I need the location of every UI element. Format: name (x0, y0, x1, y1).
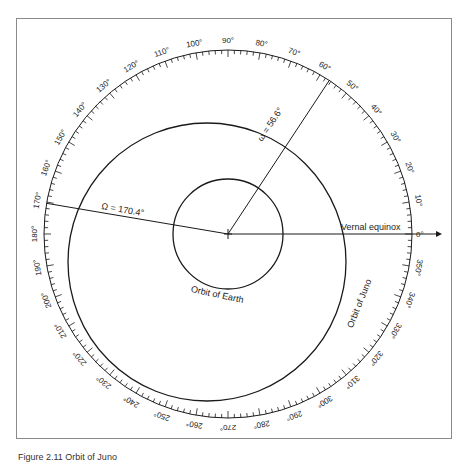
scale-tick (196, 53, 197, 60)
scale-tick (120, 380, 122, 383)
scale-tick (364, 348, 369, 352)
scale-tick (66, 148, 70, 150)
scale-label: 220° (71, 349, 89, 367)
scale-tick (317, 75, 321, 81)
scale-tick (53, 177, 57, 178)
scale-tick (47, 265, 54, 266)
scale-tick (374, 340, 377, 342)
scale-tick (370, 345, 373, 347)
scale-tick (115, 376, 117, 379)
scale-tick (83, 345, 86, 347)
scale-tick (177, 407, 178, 411)
scale-tick (323, 78, 325, 81)
scale-tick (79, 126, 82, 128)
scale-tick (348, 368, 351, 371)
scale-tick (57, 301, 61, 302)
scale-tick (295, 63, 296, 67)
scale-tick (48, 196, 52, 197)
scale-tick (115, 89, 117, 92)
scale-tick (278, 407, 279, 411)
scale-tick (136, 387, 140, 393)
scale-tick (110, 93, 114, 98)
scale-tick (202, 412, 203, 416)
scale-tick (159, 63, 160, 67)
scale-label: 180° (30, 226, 39, 243)
scale-tick (53, 290, 57, 291)
scale-tick (153, 398, 155, 402)
scale-tick (362, 354, 365, 357)
scale-tick (75, 335, 78, 337)
scale-tick (323, 387, 325, 390)
scale-tick (353, 363, 356, 366)
scale-tick (401, 183, 405, 184)
scale-tick (394, 171, 401, 173)
scale-tick (171, 59, 172, 63)
scale-tick (402, 265, 409, 266)
scale-label: 170° (32, 191, 44, 209)
scale-label: 320° (367, 349, 385, 367)
scale-tick (404, 196, 408, 197)
scale-tick (72, 136, 75, 138)
scale-tick (91, 111, 94, 114)
scale-tick (177, 57, 178, 61)
scale-tick (403, 278, 407, 279)
scale-label: 250° (153, 409, 172, 423)
scale-label: 20° (403, 161, 416, 175)
scale-label: 240° (122, 393, 141, 409)
scale-tick (69, 142, 75, 146)
scale-tick (329, 383, 331, 386)
node-longitude-label: Ω = 170.4° (101, 201, 146, 218)
scale-tick (272, 55, 273, 59)
scale-tick (406, 259, 410, 260)
scale-tick (339, 376, 341, 379)
scale-tick (49, 278, 53, 279)
scale-tick (159, 401, 160, 405)
scale-tick (399, 177, 403, 178)
scale-tick (125, 383, 127, 386)
scale-tick (301, 398, 303, 402)
scale-tick (165, 61, 167, 68)
earth-orbit-label: Orbit of Earth (190, 284, 244, 305)
scale-tick (364, 116, 369, 120)
scale-tick (253, 52, 254, 56)
scale-tick (353, 102, 356, 105)
scale-tick (329, 81, 331, 84)
scale-label: 100° (185, 38, 203, 50)
scale-tick (136, 75, 140, 81)
scale-tick (334, 380, 336, 383)
scale-tick (63, 313, 67, 315)
scale-tick (342, 370, 346, 375)
scale-tick (284, 59, 285, 63)
scale-tick (190, 54, 191, 58)
scale-label: 230° (94, 373, 112, 391)
scale-tick (55, 171, 62, 173)
scale-label: 190° (32, 259, 44, 277)
scale-tick (265, 54, 266, 58)
scale-tick (381, 329, 384, 331)
scale-tick (289, 61, 291, 68)
scale-tick (307, 69, 309, 73)
scale-tick (147, 396, 149, 400)
scale-tick (403, 189, 407, 190)
scale-label: 300° (315, 393, 334, 409)
scale-tick (142, 72, 144, 76)
scale-tick (374, 126, 377, 128)
scale-tick (51, 284, 55, 285)
scale-label: 130° (94, 77, 112, 95)
scale-tick (165, 400, 167, 407)
scale-label: 290° (285, 409, 304, 423)
scale-label: 310° (343, 373, 361, 391)
scale-tick (392, 159, 396, 161)
scale-label: 140° (71, 100, 89, 118)
scale-tick (130, 78, 132, 81)
scale-tick (284, 405, 285, 409)
scale-tick (120, 85, 122, 88)
scale-label: 110° (153, 45, 171, 59)
scale-label: 120° (122, 58, 141, 74)
scale-tick (334, 85, 336, 88)
scale-tick (91, 354, 94, 357)
scale-tick (381, 323, 387, 327)
scale-tick (190, 410, 191, 414)
scale-tick (406, 208, 410, 209)
scale-tick (171, 405, 172, 409)
